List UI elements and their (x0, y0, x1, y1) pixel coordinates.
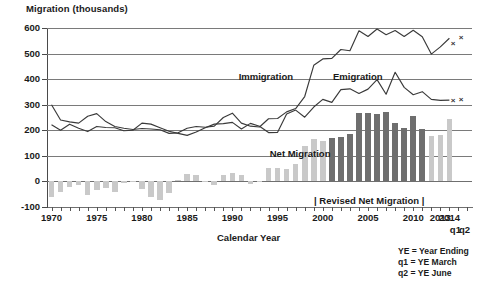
note-q1: q1 = YE March (398, 257, 469, 268)
x-tick-mark-1973 (79, 207, 80, 211)
x-tick-mark-2010 (413, 207, 414, 211)
x-tick-mark-2003 (350, 207, 351, 211)
immigration-series-label: Immigration (239, 71, 293, 82)
x-tick-mark-q1 (458, 207, 459, 211)
x-tick-mark-1998 (305, 207, 306, 211)
migration-chart: Migration (thousands) 600500400300200100… (0, 0, 488, 289)
x-tick-mark-2012 (431, 207, 432, 211)
revised-net-migration-label: | Revised Net Migration | (314, 195, 424, 206)
x-tick-label-2014: 2014 (439, 212, 460, 223)
x-tick-mark-1972 (70, 207, 71, 211)
x-tick-mark-1981 (151, 207, 152, 211)
x-tick-mark-2011 (422, 207, 423, 211)
marker-immigration-q2: × (459, 32, 464, 41)
x-tick-mark-1990 (232, 207, 233, 211)
x-tick-mark-1991 (241, 207, 242, 211)
x-tick-mark-1979 (133, 207, 134, 211)
marker-immigration-q1: × (451, 39, 456, 48)
x-tick-mark-2005 (368, 207, 369, 211)
x-tick-mark-2006 (377, 207, 378, 211)
x-tick-mark-1994 (269, 207, 270, 211)
y-tick-mark--100 (42, 207, 48, 208)
x-tick-label-1975: 1975 (86, 212, 107, 223)
x-tick-mark-2000 (323, 207, 324, 211)
y-tick-label-400: 400 (2, 74, 40, 84)
x-tick-label-1970: 1970 (41, 212, 62, 223)
x-tick-mark-1971 (61, 207, 62, 211)
note-q2: q2 = YE June (398, 268, 469, 279)
x-tick-mark-1980 (142, 207, 143, 211)
marker-emigration-q2: × (459, 95, 464, 104)
y-tick-label-500: 500 (2, 49, 40, 59)
marker-emigration-q1: × (451, 96, 456, 105)
x-tick-mark-2013 (440, 207, 441, 211)
y-tick-label-100: 100 (2, 151, 40, 161)
x-tick-label-1980: 1980 (131, 212, 152, 223)
x-tick-label-1990: 1990 (222, 212, 243, 223)
chart-y-axis-title: Migration (thousands) (26, 3, 128, 14)
x-tick-mark-1975 (97, 207, 98, 211)
notes-legend: YE = Year Ending q1 = YE March q2 = YE J… (398, 246, 469, 280)
quarter-label-q2: q2 (459, 224, 470, 235)
x-tick-label-1985: 1985 (177, 212, 198, 223)
emigration-series-label: Emigration (333, 71, 383, 82)
x-tick-mark-q2 (467, 207, 468, 211)
x-tick-mark-1986 (196, 207, 197, 211)
x-tick-mark-1993 (260, 207, 261, 211)
y-tick-label-300: 300 (2, 100, 40, 110)
x-tick-mark-1999 (314, 207, 315, 211)
x-tick-mark-2009 (404, 207, 405, 211)
note-year-ending: YE = Year Ending (398, 246, 469, 257)
x-tick-mark-1976 (106, 207, 107, 211)
y-tick-label-0: 0 (2, 176, 40, 186)
x-tick-mark-1982 (160, 207, 161, 211)
x-tick-mark-1988 (214, 207, 215, 211)
x-tick-mark-1978 (124, 207, 125, 211)
x-axis-caption: Calendar Year (217, 232, 280, 243)
x-tick-mark-1984 (178, 207, 179, 211)
x-tick-mark-1974 (88, 207, 89, 211)
x-tick-mark-1989 (223, 207, 224, 211)
x-tick-mark-1977 (115, 207, 116, 211)
x-tick-label-2010: 2010 (403, 212, 424, 223)
x-tick-mark-1983 (169, 207, 170, 211)
x-tick-mark-1995 (278, 207, 279, 211)
x-tick-mark-1987 (205, 207, 206, 211)
x-tick-mark-2004 (359, 207, 360, 211)
plot-area (47, 28, 472, 207)
x-tick-mark-2008 (395, 207, 396, 211)
x-tick-mark-1970 (52, 207, 53, 211)
x-tick-mark-1992 (250, 207, 251, 211)
migration-lines (47, 28, 472, 207)
x-tick-label-2000: 2000 (312, 212, 333, 223)
x-tick-label-2005: 2005 (357, 212, 378, 223)
net-migration-series-label: Net Migration (270, 148, 331, 159)
y-tick-label-600: 600 (2, 23, 40, 33)
y-tick-label--100: -100 (2, 202, 40, 212)
x-tick-mark-2007 (386, 207, 387, 211)
x-tick-label-1995: 1995 (267, 212, 288, 223)
x-tick-mark-2001 (332, 207, 333, 211)
x-tick-mark-1996 (287, 207, 288, 211)
x-tick-mark-1997 (296, 207, 297, 211)
y-tick-label-200: 200 (2, 125, 40, 135)
x-tick-mark-2002 (341, 207, 342, 211)
x-tick-mark-2014 (449, 207, 450, 211)
x-tick-mark-1985 (187, 207, 188, 211)
